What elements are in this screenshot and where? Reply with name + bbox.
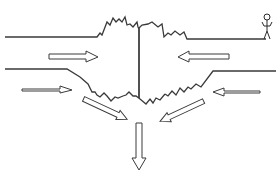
surface-right-line [139,22,266,39]
arrow-top-right-left-icon [178,51,229,62]
arrow-diag-left-icon [81,94,129,123]
arrow-diag-right-icon [158,97,206,126]
arrow-mid-right-left-icon [213,88,260,96]
stick-figure-icon [262,14,272,39]
arrow-mid-left-right-icon [22,86,72,93]
arrow-bottom-down-icon [132,123,146,170]
arrow-top-left-right-icon [49,51,98,62]
rift-diagram [0,0,280,179]
